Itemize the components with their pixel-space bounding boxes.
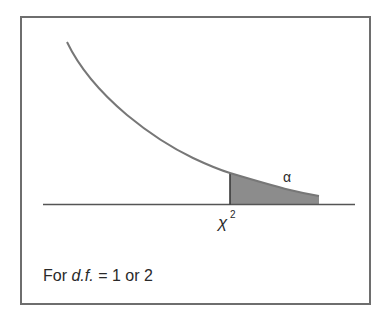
chi-square-superscript: 2	[230, 209, 236, 220]
caption-suffix: = 1 or 2	[94, 267, 153, 284]
caption-df: d.f.	[71, 267, 93, 284]
chi-square-label: χ	[216, 213, 228, 232]
chi-symbol: χ	[216, 213, 228, 232]
density-curve	[67, 42, 319, 196]
alpha-label: α	[283, 169, 291, 185]
caption-prefix: For	[43, 267, 71, 284]
degrees-of-freedom-caption: For d.f. = 1 or 2	[43, 267, 153, 285]
